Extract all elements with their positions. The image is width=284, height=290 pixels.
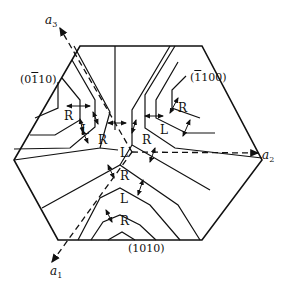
domain-label: R: [178, 102, 187, 114]
domain-label: L: [160, 124, 168, 136]
domain-label: R: [64, 110, 73, 122]
axis-a1-label: a1: [50, 265, 62, 280]
domain-label: R: [120, 170, 129, 182]
axis-a2-line: [132, 152, 258, 153]
plane-label-left: (0110): [20, 74, 57, 85]
plane-label-bottom: (1010): [128, 243, 165, 254]
domain-label: L: [120, 147, 128, 159]
domain-label: L: [81, 124, 89, 136]
axis-a3-label: a3: [45, 14, 57, 29]
domain-label: R: [142, 134, 151, 146]
plane-label-right: (1100): [190, 72, 227, 83]
domain-label: L: [120, 193, 128, 205]
domain-label: R: [120, 215, 129, 227]
axis-a2-label: a2: [262, 149, 274, 164]
domain-label: R: [98, 134, 107, 146]
